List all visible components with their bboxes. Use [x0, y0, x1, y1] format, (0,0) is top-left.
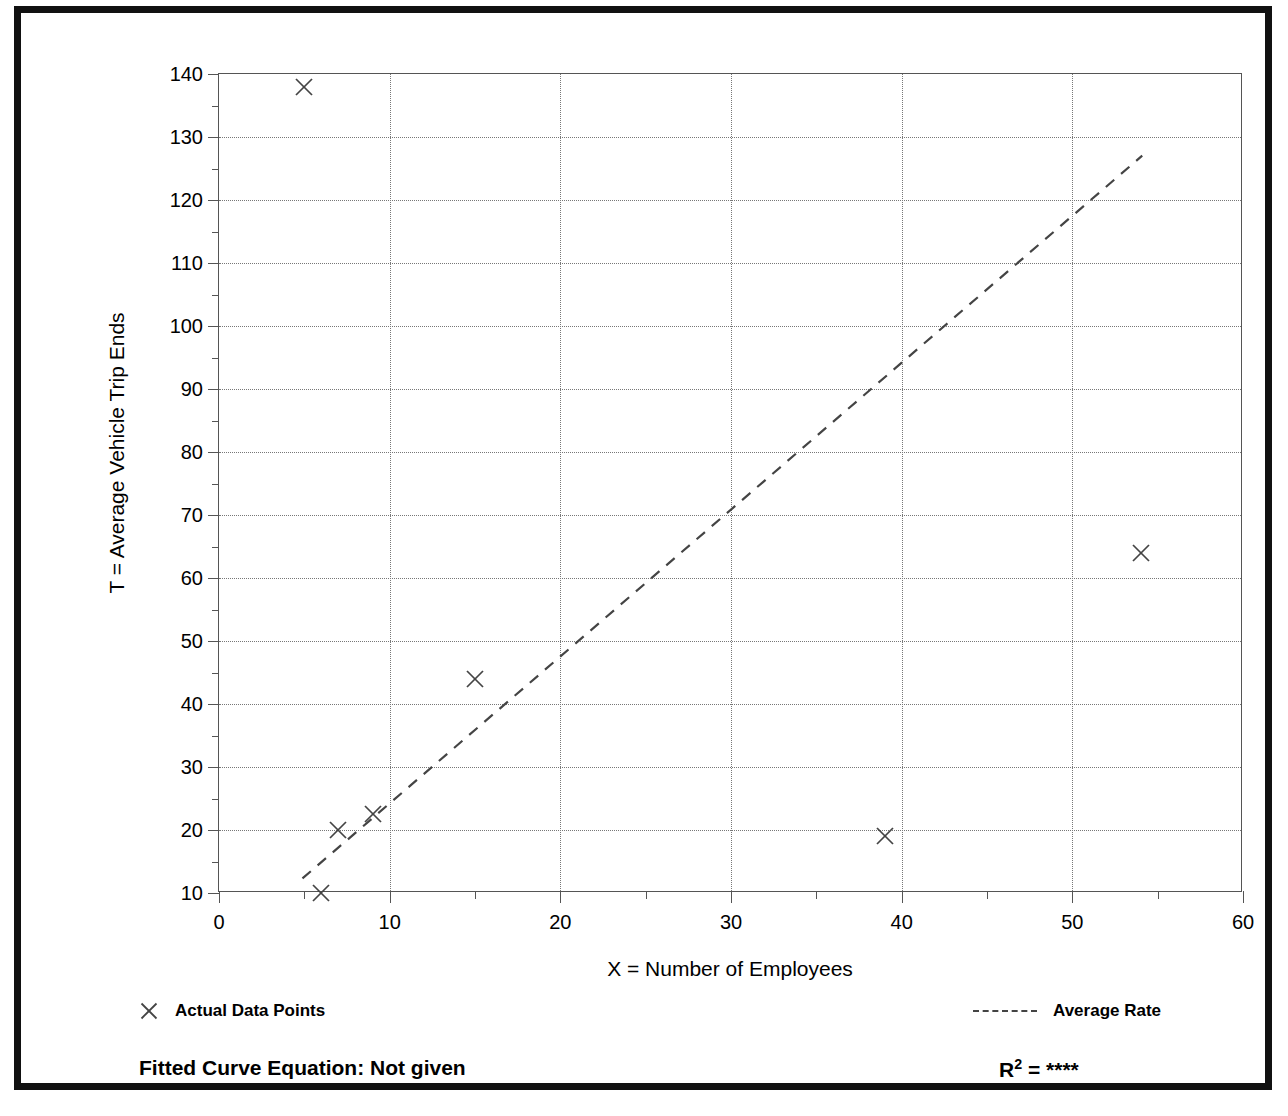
chart-page: T = Average Vehicle Trip Ends X = Number…	[0, 0, 1288, 1116]
x-axis-tick	[902, 891, 903, 903]
y-axis-tick-label: 80	[181, 441, 203, 464]
y-axis-tick-label: 90	[181, 378, 203, 401]
y-axis-tick-label: 110	[171, 252, 203, 275]
data-point-marker	[327, 819, 349, 841]
y-axis-tick	[208, 893, 219, 894]
y-axis-tick	[208, 200, 219, 201]
legend-actual-data-points: Actual Data Points	[139, 1001, 325, 1021]
x-axis-minor-tick	[646, 891, 647, 899]
y-axis-minor-tick	[212, 610, 219, 611]
y-axis-minor-tick	[212, 673, 219, 674]
y-axis-tick	[208, 578, 219, 579]
y-axis-tick-label: 70	[181, 504, 203, 527]
data-point-marker	[874, 825, 896, 847]
y-axis-tick-label: 100	[170, 315, 203, 338]
r-squared-value: R2 = ****	[999, 1056, 1079, 1082]
y-axis-minor-tick	[212, 358, 219, 359]
y-axis-tick	[208, 452, 219, 453]
x-axis-minor-tick	[304, 891, 305, 899]
data-point-marker	[362, 803, 384, 825]
x-axis-tick-label: 10	[379, 911, 401, 934]
y-axis-minor-tick	[212, 547, 219, 548]
x-axis-tick	[219, 891, 220, 903]
r-squared-exponent: 2	[1014, 1056, 1022, 1072]
y-axis-tick	[208, 389, 219, 390]
plot-area: 1020304050607080901001101201301400102030…	[218, 73, 1242, 892]
legend-actual-data-points-label: Actual Data Points	[175, 1001, 325, 1021]
y-axis-tick	[208, 137, 219, 138]
y-axis-tick-label: 40	[181, 693, 203, 716]
x-marker-icon	[139, 1001, 159, 1021]
y-axis-tick	[208, 515, 219, 516]
r-squared-result: = ****	[1028, 1058, 1079, 1081]
x-axis-tick	[731, 891, 732, 903]
y-axis-tick	[208, 263, 219, 264]
dashed-line-icon	[973, 1010, 1037, 1012]
x-axis-tick	[1072, 891, 1073, 903]
y-axis-title: T = Average Vehicle Trip Ends	[105, 312, 129, 593]
y-axis-tick-label: 60	[181, 567, 203, 590]
y-axis-minor-tick	[212, 169, 219, 170]
x-axis-minor-tick	[816, 891, 817, 899]
y-axis-tick-label: 10	[181, 882, 203, 905]
y-axis-tick	[208, 830, 219, 831]
y-axis-minor-tick	[212, 484, 219, 485]
y-axis-tick-label: 30	[181, 756, 203, 779]
x-axis-tick	[1243, 891, 1244, 903]
average-rate-trendline	[219, 74, 1241, 891]
y-axis-minor-tick	[212, 295, 219, 296]
y-axis-minor-tick	[212, 232, 219, 233]
y-axis-minor-tick	[212, 421, 219, 422]
x-axis-tick-label: 30	[720, 911, 742, 934]
y-axis-minor-tick	[212, 106, 219, 107]
x-axis-tick-label: 0	[213, 911, 224, 934]
legend-average-rate-label: Average Rate	[1053, 1001, 1161, 1021]
x-axis-minor-tick	[1158, 891, 1159, 899]
fitted-curve-equation: Fitted Curve Equation: Not given	[139, 1056, 466, 1080]
page-frame-border: T = Average Vehicle Trip Ends X = Number…	[14, 6, 1272, 1090]
y-axis-tick-label: 140	[170, 63, 203, 86]
legend-average-rate: Average Rate	[973, 1001, 1161, 1021]
y-axis-tick-label: 120	[170, 189, 203, 212]
x-axis-minor-tick	[475, 891, 476, 899]
x-axis-tick	[560, 891, 561, 903]
data-point-marker	[293, 76, 315, 98]
data-point-marker	[464, 668, 486, 690]
y-axis-minor-tick	[212, 862, 219, 863]
y-axis-tick	[208, 767, 219, 768]
y-axis-tick-label: 20	[181, 819, 203, 842]
y-axis-tick	[208, 74, 219, 75]
y-axis-tick	[208, 704, 219, 705]
x-axis-title: X = Number of Employees	[218, 957, 1242, 981]
r-squared-prefix: R	[999, 1058, 1014, 1081]
y-axis-minor-tick	[212, 736, 219, 737]
y-axis-tick	[208, 641, 219, 642]
y-axis-minor-tick	[212, 799, 219, 800]
x-axis-tick-label: 50	[1061, 911, 1083, 934]
x-axis-minor-tick	[987, 891, 988, 899]
y-axis-tick-label: 50	[181, 630, 203, 653]
x-axis-tick	[390, 891, 391, 903]
x-axis-tick-label: 20	[549, 911, 571, 934]
data-point-marker	[310, 882, 332, 904]
data-point-marker	[1130, 542, 1152, 564]
y-axis-tick	[208, 326, 219, 327]
x-axis-tick-label: 60	[1232, 911, 1254, 934]
y-axis-tick-label: 130	[170, 126, 203, 149]
x-axis-tick-label: 40	[891, 911, 913, 934]
